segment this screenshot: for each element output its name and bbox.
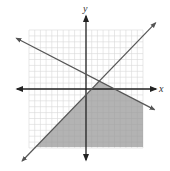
x-axis-label: x: [158, 83, 164, 94]
y-axis-label: y: [82, 3, 88, 14]
inequality-graph: x y: [0, 0, 170, 171]
